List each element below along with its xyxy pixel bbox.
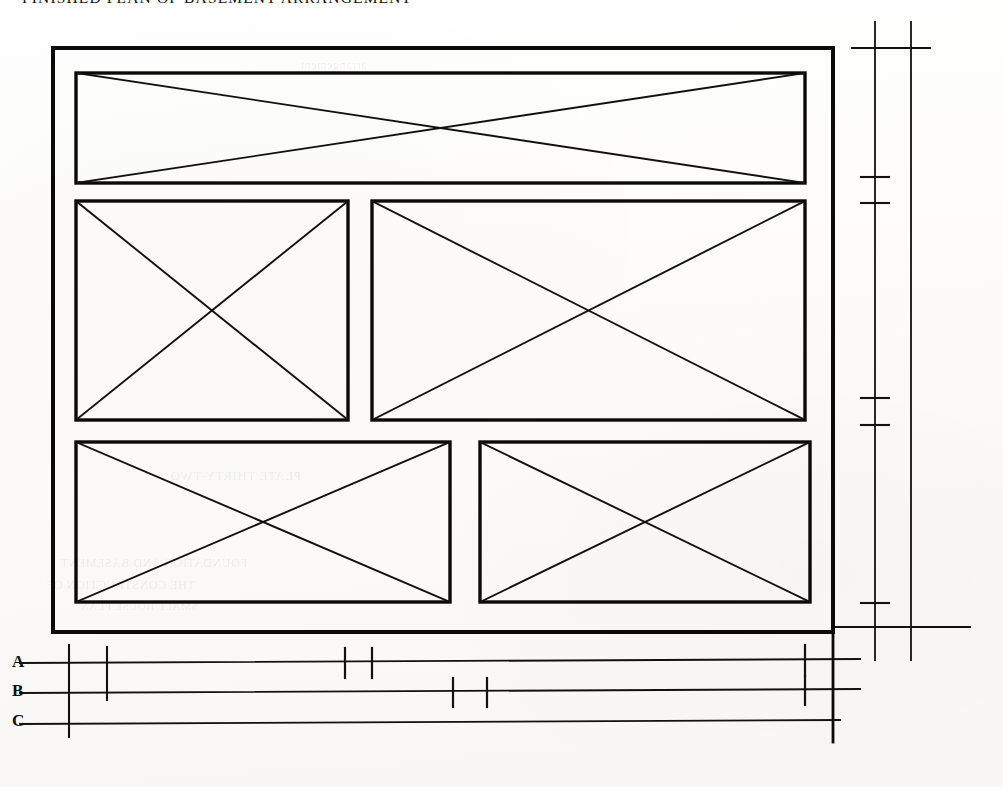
dimension-line-a	[20, 659, 860, 663]
scanned-drawing-page: arrangement PLATE THIRTY-TWO FOUNDATION …	[0, 0, 1003, 787]
room-bottom-left-bay	[76, 442, 450, 602]
dimension-line-b	[20, 689, 860, 693]
room-bottom-right-bay	[480, 442, 810, 602]
room-middle-left-bay	[76, 201, 348, 420]
dimension-line-b-group	[20, 676, 860, 707]
basement-outline	[53, 48, 833, 632]
dimension-line-c	[20, 720, 840, 724]
room-top-bay	[76, 73, 805, 183]
basement-plan-drawing	[0, 0, 1003, 787]
dimension-line-c-group	[20, 720, 840, 724]
room-middle-right-bay	[372, 201, 805, 420]
vertical-dimension-group	[852, 22, 930, 660]
dimension-line-a-group	[20, 645, 860, 678]
